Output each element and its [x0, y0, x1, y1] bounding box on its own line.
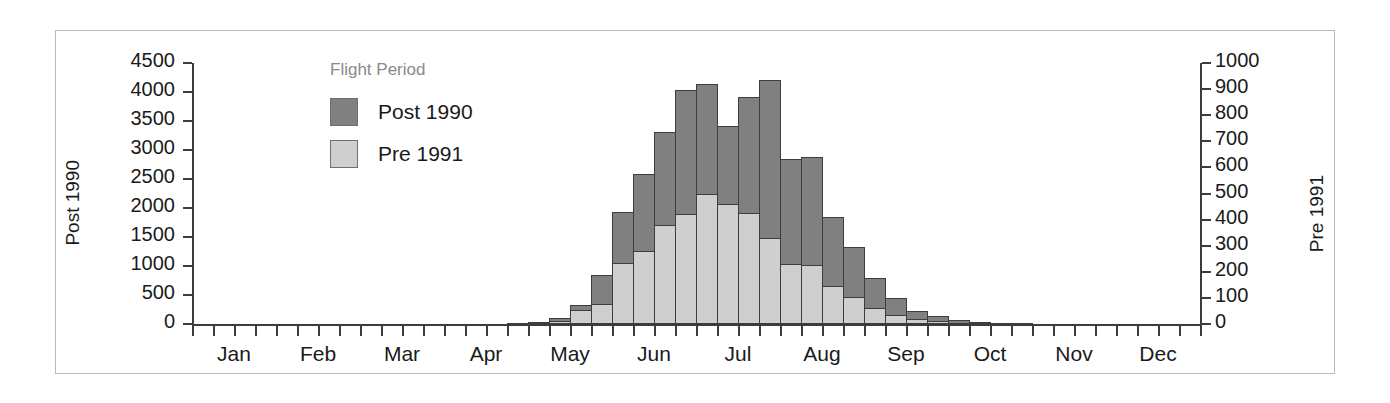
right-tick-label: 500 [1215, 180, 1285, 203]
right-tick-label: 700 [1215, 127, 1285, 150]
x-tick-mark [528, 326, 530, 336]
x-tick-mark [276, 326, 278, 336]
bar-pre-1991 [570, 310, 592, 324]
bar-pre-1991 [591, 304, 613, 324]
right-tick-label: 300 [1215, 232, 1285, 255]
left-tick-label: 500 [97, 281, 175, 304]
right-tick-label: 1000 [1215, 49, 1285, 72]
right-tick-mark [1202, 62, 1211, 64]
bar-post-1990 [990, 323, 1012, 325]
bar-pre-1991 [696, 194, 718, 325]
x-tick-mark [780, 326, 782, 336]
x-tick-mark [234, 326, 236, 336]
x-tick-mark [654, 326, 656, 336]
right-axis-line [1200, 63, 1202, 326]
bar-pre-1991 [612, 263, 634, 324]
x-axis-month-label: Dec [1113, 342, 1203, 366]
right-tick-mark [1202, 114, 1211, 116]
bar-pre-1991 [843, 297, 865, 324]
left-tick-label: 3000 [97, 136, 175, 159]
x-tick-mark [465, 326, 467, 336]
x-tick-mark [612, 326, 614, 336]
left-tick-label: 2000 [97, 194, 175, 217]
x-axis-month-label: Nov [1029, 342, 1119, 366]
bar-pre-1991 [759, 238, 781, 324]
x-tick-mark [864, 326, 866, 336]
left-tick-mark [183, 149, 192, 151]
x-axis-month-label: Apr [441, 342, 531, 366]
x-tick-mark [675, 326, 677, 336]
bar-pre-1991 [717, 204, 739, 324]
x-tick-mark [822, 326, 824, 336]
bar-pre-1991 [864, 308, 886, 324]
x-tick-mark [717, 326, 719, 336]
x-tick-mark [1137, 326, 1139, 336]
x-axis-month-label: Jan [189, 342, 279, 366]
bar-pre-1991 [528, 323, 550, 325]
left-tick-label: 4500 [97, 49, 175, 72]
bar-pre-1991 [948, 323, 970, 325]
right-tick-mark [1202, 193, 1211, 195]
bar-pre-1991 [780, 264, 802, 324]
right-tick-mark [1202, 140, 1211, 142]
right-tick-label: 0 [1215, 310, 1285, 333]
bar-pre-1991 [549, 321, 571, 324]
bar-pre-1991 [969, 323, 991, 325]
x-tick-mark [444, 326, 446, 336]
left-tick-mark [183, 62, 192, 64]
x-tick-mark [801, 326, 803, 336]
left-tick-mark [183, 265, 192, 267]
right-tick-label: 900 [1215, 75, 1285, 98]
right-tick-label: 800 [1215, 101, 1285, 124]
right-tick-mark [1202, 166, 1211, 168]
x-tick-mark [360, 326, 362, 336]
x-axis-month-label: Jul [693, 342, 783, 366]
left-tick-mark [183, 178, 192, 180]
x-axis-month-label: Sep [861, 342, 951, 366]
bar-pre-1991 [885, 315, 907, 324]
x-axis-month-label: Jun [609, 342, 699, 366]
x-tick-mark [255, 326, 257, 336]
bar-pre-1991 [801, 265, 823, 324]
x-tick-mark [1116, 326, 1118, 336]
x-tick-mark [318, 326, 320, 336]
left-tick-label: 2500 [97, 165, 175, 188]
right-tick-mark [1202, 297, 1211, 299]
bar-pre-1991 [822, 286, 844, 324]
x-tick-mark [843, 326, 845, 336]
x-tick-mark [507, 326, 509, 336]
left-axis-line [192, 63, 194, 326]
x-tick-mark [1032, 326, 1034, 336]
x-tick-mark [339, 326, 341, 336]
x-tick-mark [759, 326, 761, 336]
right-tick-mark [1202, 219, 1211, 221]
right-tick-label: 200 [1215, 258, 1285, 281]
x-tick-mark [1011, 326, 1013, 336]
bar-post-1990 [507, 323, 529, 325]
x-axis-month-label: Oct [945, 342, 1035, 366]
right-tick-label: 100 [1215, 284, 1285, 307]
plot-area: 0500100015002000250030003500400045000100… [0, 0, 1390, 403]
x-tick-mark [738, 326, 740, 336]
x-tick-mark [969, 326, 971, 336]
x-tick-mark [990, 326, 992, 336]
x-axis-month-label: May [525, 342, 615, 366]
left-tick-mark [183, 323, 192, 325]
x-tick-mark [1053, 326, 1055, 336]
left-tick-label: 3500 [97, 107, 175, 130]
left-tick-mark [183, 207, 192, 209]
x-tick-mark [1200, 326, 1202, 336]
x-tick-mark [1179, 326, 1181, 336]
x-tick-mark [1074, 326, 1076, 336]
right-tick-mark [1202, 245, 1211, 247]
bar-pre-1991 [654, 225, 676, 324]
x-axis-month-label: Mar [357, 342, 447, 366]
x-tick-mark [906, 326, 908, 336]
x-tick-mark [486, 326, 488, 336]
right-tick-label: 400 [1215, 206, 1285, 229]
x-tick-mark [423, 326, 425, 336]
bar-pre-1991 [738, 213, 760, 324]
left-tick-mark [183, 236, 192, 238]
x-tick-mark [696, 326, 698, 336]
right-tick-mark [1202, 271, 1211, 273]
